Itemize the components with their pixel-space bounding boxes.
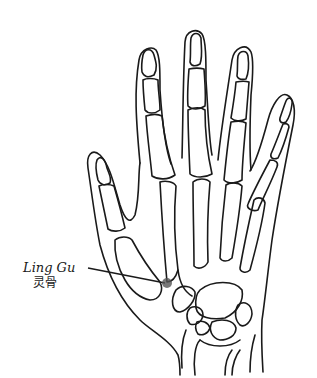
hand-skeleton-diagram xyxy=(0,0,317,378)
point-label-english: Ling Gu xyxy=(23,261,75,275)
ring-finger-bones xyxy=(224,52,249,184)
leader-line xyxy=(88,268,165,283)
thumb-bones xyxy=(96,158,125,232)
point-label-chinese: 灵骨 xyxy=(33,276,57,290)
ling-gu-point-marker xyxy=(162,278,172,288)
forearm-bones xyxy=(182,330,255,375)
index-finger-bones xyxy=(142,50,175,179)
middle-finger-bones xyxy=(188,34,212,178)
